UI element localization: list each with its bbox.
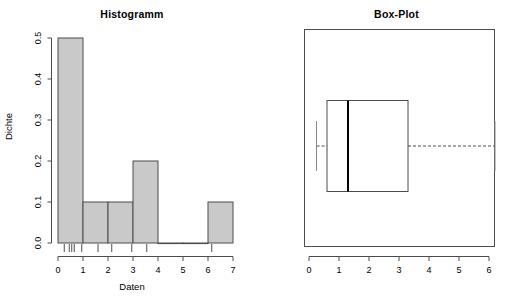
histogram-ytick-label: 0.5 <box>33 32 43 45</box>
histogram-ytick-label: 0.3 <box>33 114 43 127</box>
boxplot-xtick-label: 6 <box>486 265 491 275</box>
histogram-panel: Histogramm <box>0 0 264 306</box>
histogram-ytick-label: 0.4 <box>33 73 43 86</box>
histogram-xtick-label: 3 <box>130 265 135 275</box>
histogram-y-axis-title: Dichte <box>3 113 14 140</box>
histogram-xtick-label: 5 <box>180 265 185 275</box>
histogram-xtick-label: 0 <box>55 265 60 275</box>
histogram-rug <box>64 244 212 252</box>
boxplot-xtick-label: 1 <box>336 265 341 275</box>
histogram-x-ticks <box>58 257 233 262</box>
histogram-bar <box>133 161 158 243</box>
histogram-xtick-label: 2 <box>105 265 110 275</box>
boxplot-panel: Box-Plot <box>264 0 529 306</box>
histogram-bar <box>158 243 183 244</box>
histogram-bar <box>58 38 83 243</box>
plot-figure: Histogramm <box>0 0 529 306</box>
boxplot-plot-area <box>264 0 529 306</box>
histogram-ytick-label: 0.1 <box>33 196 43 209</box>
histogram-bar <box>208 202 233 243</box>
histogram-ytick-label: 0.0 <box>33 237 43 250</box>
histogram-x-axis-title: Daten <box>0 281 264 292</box>
boxplot-xtick-label: 4 <box>426 265 431 275</box>
boxplot-x-ticks <box>309 257 489 262</box>
histogram-xtick-label: 4 <box>155 265 160 275</box>
boxplot-xtick-label: 5 <box>456 265 461 275</box>
histogram-bar <box>83 202 108 243</box>
boxplot-xtick-label: 2 <box>366 265 371 275</box>
histogram-xtick-label: 7 <box>230 265 235 275</box>
histogram-xtick-label: 1 <box>80 265 85 275</box>
histogram-xtick-label: 6 <box>205 265 210 275</box>
histogram-plot-area <box>0 0 264 306</box>
histogram-bar <box>183 243 208 244</box>
boxplot-xtick-label: 3 <box>396 265 401 275</box>
histogram-ytick-label: 0.2 <box>33 155 43 168</box>
boxplot-box <box>327 101 408 192</box>
boxplot-xtick-label: 0 <box>306 265 311 275</box>
histogram-bar <box>108 202 133 243</box>
